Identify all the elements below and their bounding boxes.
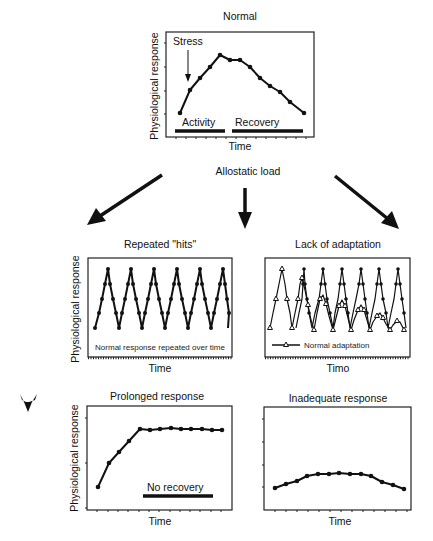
no-recovery-label: No recovery [147,481,204,493]
panel-inadequate-response: Inadequate response Time [262,392,411,527]
panel-repeated-hits: Repeated "hits" Physiological response N… [69,238,232,374]
arrow-left-icon [87,175,162,225]
inadequate-response-line [275,473,404,489]
x-axis-label: Timo [327,362,350,374]
x-axis-label: Time [329,515,352,527]
arrow-down-icon [238,188,252,229]
allostatic-load-section: Allostatic load [87,165,399,229]
data-points [273,471,407,492]
y-axis-label: Physiological response [69,255,81,363]
plot-frame [264,407,411,510]
panel-prolonged-response: Prolonged response Physiological respons… [68,390,232,527]
panel-title: Prolonged response [110,390,204,402]
panel-title: Normal [223,10,257,22]
stress-label: Stress [173,35,203,47]
repeated-hits-line [95,269,229,328]
y-axis-label: Physiological response [148,32,160,140]
sustained-response-line [296,269,406,328]
adaptation-points [268,266,407,332]
publisher-logo-icon [20,394,37,412]
arrow-right-icon [335,176,399,229]
prolonged-response-line [98,428,222,487]
legend-label: Normal adaptation [304,341,369,350]
x-axis-label: Time [229,140,252,152]
panel-lack-of-adaptation: Lack of adaptation [265,238,410,374]
x-axis-label: Time [149,362,172,374]
y-axis-label: Physiological response [68,404,80,512]
panel-title: Repeated "hits" [124,238,197,250]
legend-triangle-icon [284,342,289,347]
allostatic-load-diagram: Normal Physiological response Stress [0,0,433,541]
activity-label: Activity [182,116,216,128]
normal-response-line [180,55,304,113]
panel-title: Lack of adaptation [295,238,381,250]
x-axis-label: Time [149,515,172,527]
panel-normal: Normal Physiological response Stress [148,10,314,152]
stress-arrowhead-icon [185,74,191,82]
repeated-hits-annotation: Normal response repeated over time [95,343,225,352]
recovery-label: Recovery [235,116,280,128]
panel-title: Inadequate response [289,392,388,404]
legend: Normal adaptation [272,341,369,350]
allostatic-load-label: Allostatic load [216,165,281,177]
